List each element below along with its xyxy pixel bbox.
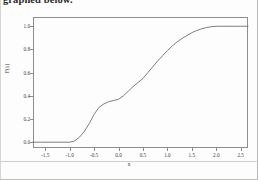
x-tick-label: -1.5: [33, 152, 57, 158]
y-axis-title: F(x): [4, 64, 10, 73]
x-tick-label: 0.0: [107, 152, 131, 158]
x-tick-mark: [167, 148, 168, 151]
x-tick-label: 2.0: [204, 152, 228, 158]
x-tick-mark: [94, 148, 95, 151]
x-tick-label: 0.5: [131, 152, 155, 158]
x-tick-mark: [119, 148, 120, 151]
y-tick-label: 0.8: [24, 46, 30, 52]
scanned-page: graphed below. 0.00.20.40.60.81.0 -1.5-1…: [0, 0, 258, 180]
x-tick-mark: [216, 148, 217, 151]
x-tick-mark: [45, 148, 46, 151]
y-tick-label: 0.2: [24, 116, 30, 122]
x-tick-label: -1.0: [58, 152, 82, 158]
x-tick-mark: [241, 148, 242, 151]
cdf-curve-line: [33, 26, 248, 142]
x-tick-label: 2.5: [229, 152, 253, 158]
x-tick-mark: [192, 148, 193, 151]
cdf-curve-svg: [33, 17, 248, 148]
x-tick-mark: [143, 148, 144, 151]
x-tick-label: 1.0: [155, 152, 179, 158]
page-heading: graphed below.: [3, 0, 73, 5]
figure-cdf-plot: 0.00.20.40.60.81.0 -1.5-1.0-0.50.00.51.0…: [0, 9, 258, 174]
x-tick-label: -0.5: [82, 152, 106, 158]
x-tick-mark: [70, 148, 71, 151]
x-axis-title: x: [0, 161, 258, 167]
y-tick-label: 0.6: [24, 70, 30, 76]
x-tick-label: 1.5: [180, 152, 204, 158]
y-tick-label: 1.0: [24, 23, 30, 29]
y-tick-label: 0.4: [24, 93, 30, 99]
y-tick-label: 0.0: [24, 139, 30, 145]
page-edge-bottom: [0, 179, 258, 180]
